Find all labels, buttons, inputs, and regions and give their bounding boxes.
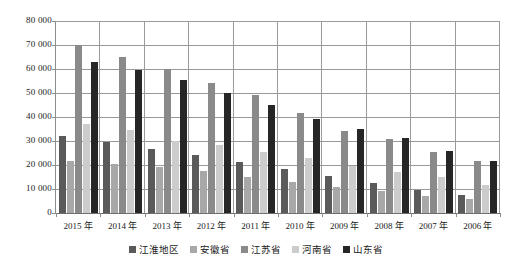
bar[interactable] — [297, 113, 304, 213]
bar-group — [278, 21, 322, 213]
bar-group — [189, 21, 233, 213]
legend-item[interactable]: 安徽省 — [190, 242, 230, 256]
bar[interactable] — [349, 166, 356, 213]
legend-swatch-icon — [241, 246, 248, 253]
bar[interactable] — [325, 176, 332, 213]
legend-item[interactable]: 山东省 — [343, 242, 383, 256]
bar[interactable] — [490, 161, 497, 213]
x-axis-tick — [367, 213, 368, 217]
legend-label: 河南省 — [302, 242, 332, 256]
bar[interactable] — [394, 172, 401, 213]
bar-group — [234, 21, 278, 213]
bar[interactable] — [135, 70, 142, 213]
bar[interactable] — [91, 62, 98, 213]
bar[interactable] — [172, 141, 179, 213]
y-axis-tick-label: 80 000 — [2, 16, 52, 25]
bar[interactable] — [402, 138, 409, 213]
bar[interactable] — [224, 93, 231, 213]
x-axis-tick-label: 2009 年 — [322, 219, 366, 235]
bar[interactable] — [422, 196, 429, 213]
bar-group — [411, 21, 455, 213]
bar[interactable] — [83, 124, 90, 213]
bar[interactable] — [289, 182, 296, 213]
x-axis-tick-label: 2013 年 — [145, 219, 189, 235]
bar[interactable] — [200, 171, 207, 213]
bar[interactable] — [244, 177, 251, 213]
bar[interactable] — [466, 199, 473, 213]
y-axis-tick-label: 70 000 — [2, 40, 52, 49]
legend-item[interactable]: 江苏省 — [241, 242, 281, 256]
bar[interactable] — [474, 161, 481, 213]
bar[interactable] — [378, 191, 385, 213]
chart-legend: 江淮地区安徽省江苏省河南省山东省 — [0, 240, 511, 258]
bar[interactable] — [75, 45, 82, 213]
bar-group — [56, 21, 100, 213]
bar[interactable] — [430, 152, 437, 213]
legend-label: 山东省 — [353, 242, 383, 256]
bar-chart: 80 00070 00060 00050 00040 00030 00020 0… — [0, 0, 511, 263]
x-axis-labels: 2015 年2014 年2013 年2012 年2011 年2010 年2009… — [56, 219, 500, 235]
legend-swatch-icon — [343, 246, 350, 253]
legend-item[interactable]: 江淮地区 — [129, 242, 179, 256]
x-axis-tick — [322, 213, 323, 217]
bar-group — [322, 21, 366, 213]
bar[interactable] — [236, 162, 243, 213]
legend-label: 江淮地区 — [139, 242, 179, 256]
bar[interactable] — [386, 139, 393, 213]
x-axis-tick-label: 2012 年 — [189, 219, 233, 235]
x-axis-tick — [278, 213, 279, 217]
x-axis-tick — [234, 213, 235, 217]
legend-swatch-icon — [292, 246, 299, 253]
bar-group — [145, 21, 189, 213]
bar[interactable] — [305, 158, 312, 213]
bar[interactable] — [281, 169, 288, 213]
bar[interactable] — [313, 119, 320, 213]
x-axis-tick-label: 2007 年 — [411, 219, 455, 235]
y-axis-tick-label: 50 000 — [2, 88, 52, 97]
bar[interactable] — [333, 187, 340, 213]
bar[interactable] — [127, 130, 134, 213]
bar[interactable] — [67, 161, 74, 213]
x-axis-tick — [100, 213, 101, 217]
y-axis-tick-label: 30 000 — [2, 136, 52, 145]
bar[interactable] — [180, 80, 187, 213]
plot-area — [56, 21, 500, 213]
bar[interactable] — [357, 129, 364, 213]
x-axis-tick — [456, 213, 457, 217]
bar[interactable] — [260, 152, 267, 213]
bar[interactable] — [111, 164, 118, 213]
x-axis-ticks — [56, 213, 500, 218]
bar[interactable] — [370, 183, 377, 213]
y-axis-tick-label: 60 000 — [2, 64, 52, 73]
bar[interactable] — [252, 95, 259, 213]
bar[interactable] — [414, 190, 421, 213]
x-axis-tick-label: 2011 年 — [234, 219, 278, 235]
bar[interactable] — [156, 167, 163, 213]
bar[interactable] — [164, 69, 171, 213]
bar-group — [456, 21, 500, 213]
bar[interactable] — [148, 149, 155, 213]
bar[interactable] — [103, 142, 110, 213]
bar[interactable] — [192, 155, 199, 213]
bar[interactable] — [438, 177, 445, 213]
bar[interactable] — [59, 136, 66, 213]
bar[interactable] — [341, 131, 348, 213]
bar[interactable] — [446, 151, 453, 213]
legend-swatch-icon — [190, 246, 197, 253]
bar[interactable] — [482, 185, 489, 213]
bar-group — [367, 21, 411, 213]
legend-item[interactable]: 河南省 — [292, 242, 332, 256]
y-axis-tick-label: 10 000 — [2, 184, 52, 193]
x-axis-tick — [56, 213, 57, 217]
bar[interactable] — [268, 105, 275, 213]
bar[interactable] — [119, 57, 126, 213]
x-axis-tick — [145, 213, 146, 217]
legend-label: 江苏省 — [251, 242, 281, 256]
y-axis: 80 00070 00060 00050 00040 00030 00020 0… — [0, 0, 52, 263]
bar[interactable] — [458, 195, 465, 213]
bar-group — [100, 21, 144, 213]
bar[interactable] — [208, 83, 215, 213]
bar[interactable] — [216, 145, 223, 213]
x-axis-tick-label: 2008 年 — [367, 219, 411, 235]
x-axis-tick-label: 2010 年 — [278, 219, 322, 235]
